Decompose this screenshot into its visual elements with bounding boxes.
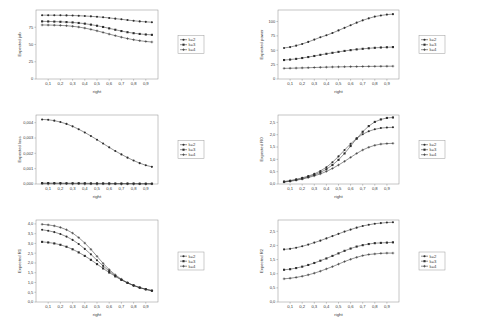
plot-expected-r2: 0,00,51,01,52,02,50,10,20,30,40,50,60,70… [242, 210, 483, 328]
svg-text:0,3: 0,3 [311, 304, 317, 309]
svg-text:0,6: 0,6 [348, 186, 354, 191]
svg-text:0,9: 0,9 [384, 186, 390, 191]
panel-expected-r0: 0,00,51,01,52,02,50,10,20,30,40,50,60,70… [242, 105, 483, 210]
svg-text:0,7: 0,7 [118, 304, 124, 309]
svg-text:0,6: 0,6 [348, 81, 354, 86]
svg-text:0,2: 0,2 [57, 81, 63, 86]
svg-text:0: 0 [31, 76, 34, 81]
svg-text:0,6: 0,6 [106, 304, 112, 309]
svg-text:0,5: 0,5 [336, 186, 342, 191]
svg-text:3,5: 3,5 [28, 231, 34, 236]
svg-text:100: 100 [269, 19, 276, 24]
svg-text:0,7: 0,7 [360, 81, 366, 86]
svg-text:0,3: 0,3 [311, 186, 317, 191]
plot-expected-r1: 0,00,51,01,52,02,53,03,54,00,10,20,30,40… [0, 210, 242, 328]
svg-text:0,2: 0,2 [57, 186, 63, 191]
svg-text:0,1: 0,1 [45, 304, 51, 309]
panel-expected-power: 02550751000,10,20,30,40,50,60,70,80,9rig… [242, 0, 483, 105]
svg-text:k=4: k=4 [430, 152, 438, 157]
svg-text:0,5: 0,5 [28, 290, 34, 295]
plot-expected-loss: 0,0000,0010,0020,0030,0040,10,20,30,40,5… [0, 105, 242, 210]
svg-text:0,7: 0,7 [360, 186, 366, 191]
chart-canvas-expected-r0: 0,00,51,01,52,02,50,10,20,30,40,50,60,70… [242, 105, 483, 210]
svg-text:0,1: 0,1 [45, 81, 51, 86]
svg-text:0,5: 0,5 [336, 81, 342, 86]
svg-text:0,0: 0,0 [270, 181, 276, 186]
svg-text:75: 75 [29, 25, 34, 30]
svg-text:50: 50 [29, 42, 34, 47]
chart-canvas-expected-loss: 0,0000,0010,0020,0030,0040,10,20,30,40,5… [0, 105, 242, 210]
svg-text:right: right [93, 89, 102, 94]
svg-text:25: 25 [29, 59, 34, 64]
svg-text:0,8: 0,8 [372, 81, 378, 86]
plot-expected-power: 02550751000,10,20,30,40,50,60,70,80,9rig… [242, 0, 483, 105]
svg-text:0,4: 0,4 [323, 186, 329, 191]
svg-text:0,7: 0,7 [360, 304, 366, 309]
svg-text:0,2: 0,2 [57, 304, 63, 309]
svg-text:right: right [93, 312, 102, 317]
chart-canvas-expected-r1: 0,00,51,01,52,02,53,03,54,00,10,20,30,40… [0, 210, 242, 328]
svg-text:0,5: 0,5 [336, 304, 342, 309]
svg-text:4,0: 4,0 [28, 221, 34, 226]
svg-text:0,8: 0,8 [372, 186, 378, 191]
svg-text:1,5: 1,5 [28, 270, 34, 275]
svg-text:0,9: 0,9 [143, 304, 149, 309]
svg-text:0,2: 0,2 [299, 304, 305, 309]
svg-text:0,004: 0,004 [23, 120, 34, 125]
svg-text:0,1: 0,1 [287, 81, 293, 86]
svg-text:Expected power: Expected power [259, 29, 264, 60]
chart-canvas-expected-power: 02550751000,10,20,30,40,50,60,70,80,9rig… [242, 0, 483, 105]
plot-expected-job: 02550750,10,20,30,40,50,60,70,80,9rightE… [0, 0, 242, 105]
svg-text:Expected R0: Expected R0 [259, 137, 264, 162]
svg-text:0,3: 0,3 [70, 81, 76, 86]
panel-expected-loss: 0,0000,0010,0020,0030,0040,10,20,30,40,5… [0, 105, 242, 210]
svg-text:0,5: 0,5 [94, 81, 100, 86]
svg-text:right: right [334, 312, 343, 317]
svg-text:0,1: 0,1 [45, 186, 51, 191]
svg-text:0: 0 [273, 76, 276, 81]
svg-text:0,4: 0,4 [82, 186, 88, 191]
svg-text:2,0: 2,0 [270, 243, 276, 248]
svg-text:75: 75 [271, 33, 276, 38]
svg-text:k=4: k=4 [430, 47, 438, 52]
svg-text:0,0: 0,0 [270, 299, 276, 304]
svg-text:0,6: 0,6 [106, 186, 112, 191]
svg-text:1,0: 1,0 [28, 280, 34, 285]
svg-text:2,5: 2,5 [28, 251, 34, 256]
plot-expected-r0: 0,00,51,01,52,02,50,10,20,30,40,50,60,70… [242, 105, 483, 210]
svg-text:0,2: 0,2 [299, 81, 305, 86]
svg-text:2,0: 2,0 [270, 132, 276, 137]
svg-text:0,003: 0,003 [23, 135, 34, 140]
svg-text:right: right [334, 89, 343, 94]
svg-text:0,9: 0,9 [143, 81, 149, 86]
svg-text:1,5: 1,5 [270, 144, 276, 149]
svg-text:0,8: 0,8 [131, 304, 137, 309]
svg-text:k=4: k=4 [189, 47, 197, 52]
svg-text:Expected R2: Expected R2 [259, 248, 264, 273]
svg-text:k=4: k=4 [189, 152, 197, 157]
svg-text:0,5: 0,5 [94, 304, 100, 309]
panel-expected-r2: 0,00,51,01,52,02,50,10,20,30,40,50,60,70… [242, 210, 483, 328]
svg-text:right: right [334, 194, 343, 199]
svg-text:0,8: 0,8 [372, 304, 378, 309]
svg-text:0,3: 0,3 [70, 304, 76, 309]
svg-text:0,0: 0,0 [28, 299, 34, 304]
svg-text:Expected loss: Expected loss [17, 136, 22, 162]
svg-text:right: right [93, 194, 102, 199]
svg-text:2,5: 2,5 [270, 120, 276, 125]
svg-text:0,7: 0,7 [118, 186, 124, 191]
panel-expected-r1: 0,00,51,01,52,02,53,03,54,00,10,20,30,40… [0, 210, 242, 328]
svg-text:0,4: 0,4 [82, 81, 88, 86]
svg-text:2,5: 2,5 [270, 229, 276, 234]
svg-text:0,002: 0,002 [23, 151, 34, 156]
svg-text:1,0: 1,0 [270, 271, 276, 276]
svg-text:0,9: 0,9 [384, 304, 390, 309]
chart-canvas-expected-r2: 0,00,51,01,52,02,50,10,20,30,40,50,60,70… [242, 210, 483, 328]
chart-canvas-expected-job: 02550750,10,20,30,40,50,60,70,80,9rightE… [0, 0, 242, 105]
svg-text:0,5: 0,5 [270, 285, 276, 290]
figure-grid: 02550750,10,20,30,40,50,60,70,80,9rightE… [0, 0, 483, 328]
svg-text:0,1: 0,1 [287, 186, 293, 191]
svg-text:1,5: 1,5 [270, 257, 276, 262]
svg-text:0,1: 0,1 [287, 304, 293, 309]
svg-text:0,5: 0,5 [94, 186, 100, 191]
